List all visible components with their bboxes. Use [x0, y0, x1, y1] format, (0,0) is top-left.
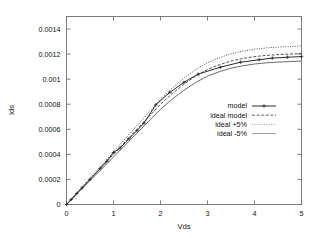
x-tick-label: 1 — [112, 209, 116, 218]
y-tick-label: 0 — [57, 200, 61, 209]
x-tick-label: 5 — [300, 209, 304, 218]
chart-background — [0, 0, 324, 238]
x-axis-label: Vds — [177, 222, 190, 231]
x-tick-label: 2 — [159, 209, 163, 218]
y-tick-label: 0.0004 — [39, 150, 61, 159]
chart-container: 00.00020.00040.00060.00080.0010.00120.00… — [0, 0, 324, 238]
legend-label-ideal-5-: ideal +5% — [215, 120, 247, 129]
y-tick-label: 0.0006 — [39, 125, 61, 134]
legend-label-model: model — [227, 101, 247, 110]
y-tick-label: 0.0008 — [39, 100, 61, 109]
y-axis-label: Ids — [7, 105, 16, 115]
x-tick-label: 3 — [206, 209, 210, 218]
x-tick-label: 0 — [65, 209, 69, 218]
y-tick-label: 0.0012 — [39, 50, 61, 59]
legend-label-ideal-5-: ideal -5% — [217, 129, 248, 138]
y-tick-label: 0.0002 — [39, 175, 61, 184]
y-tick-label: 0.001 — [43, 75, 61, 84]
legend-label-ideal-model: ideal model — [210, 111, 247, 120]
iv-characteristic-chart: 00.00020.00040.00060.00080.0010.00120.00… — [0, 0, 324, 238]
x-tick-label: 4 — [253, 209, 257, 218]
y-tick-label: 0.0014 — [39, 25, 61, 34]
